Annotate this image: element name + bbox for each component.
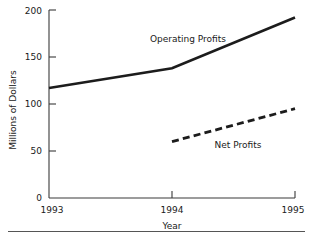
y-axis-title: Millions of Dollars xyxy=(8,70,18,150)
y-tick-label-100: 100 xyxy=(25,99,42,109)
x-axis-title: Year xyxy=(161,221,181,231)
y-tick-label-50: 50 xyxy=(31,146,43,156)
y-tick-label-0: 0 xyxy=(36,193,42,203)
footer-divider xyxy=(8,231,305,232)
annotation-net-profits: Net Profits xyxy=(215,140,262,150)
series-line-operating-profits xyxy=(49,18,295,89)
y-tick-label-200: 200 xyxy=(25,6,42,16)
line-chart-figure: Millions of Dollars 200 150 100 50 0 199… xyxy=(0,0,313,242)
series-line-net-profits xyxy=(172,109,295,142)
x-tick-label-1993: 1993 xyxy=(41,205,64,215)
x-tick-label-1995: 1995 xyxy=(282,205,305,215)
x-tick-label-1994: 1994 xyxy=(161,205,184,215)
y-tick-label-150: 150 xyxy=(25,52,42,62)
chart-plot-area: Millions of Dollars 200 150 100 50 0 199… xyxy=(0,0,313,242)
annotation-operating-profits: Operating Profits xyxy=(150,34,226,44)
